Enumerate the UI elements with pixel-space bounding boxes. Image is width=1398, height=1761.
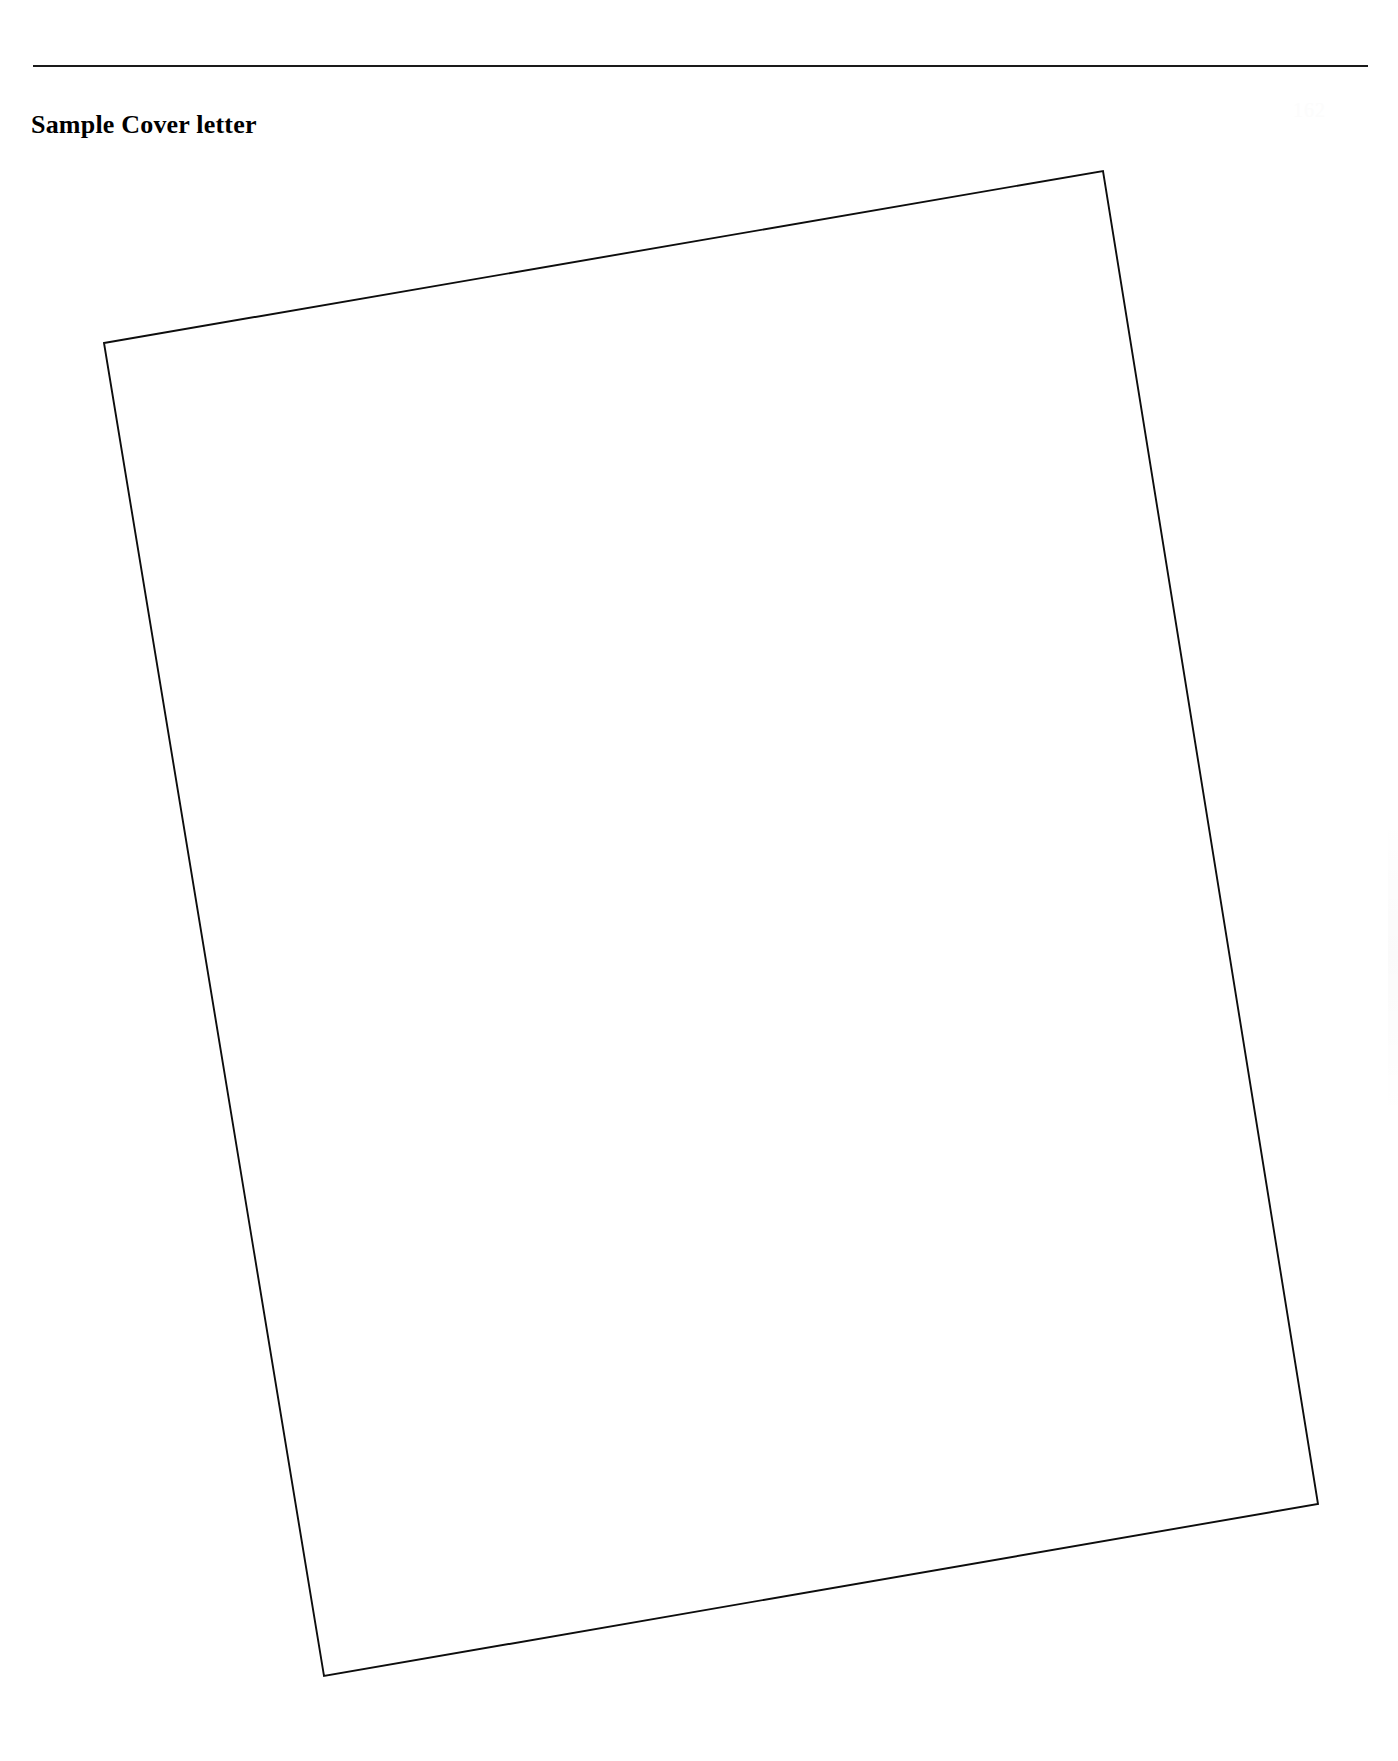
document-page: Sample Cover letter 162: [0, 0, 1398, 1761]
scanned-sheet-svg: [0, 0, 1398, 1761]
scanned-page-outline: [104, 171, 1318, 1676]
paper-edge-noise: [1388, 820, 1398, 1120]
scanned-sheet-layer: [0, 0, 1398, 1761]
header-divider-rule: [33, 65, 1368, 67]
page-title: Sample Cover letter: [31, 109, 257, 141]
folio-artifact-text: 162: [1293, 98, 1326, 122]
